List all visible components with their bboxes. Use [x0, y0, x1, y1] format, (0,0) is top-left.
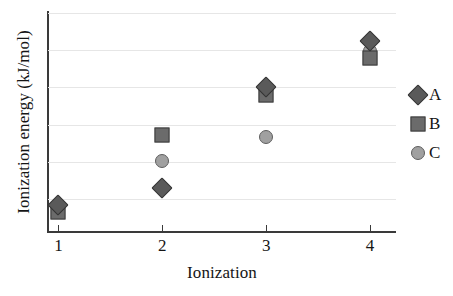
x-tick	[266, 225, 267, 232]
gridline	[48, 162, 396, 163]
x-tick-label-3: 3	[251, 236, 281, 256]
plot-area	[48, 12, 396, 232]
marker-diamond	[407, 84, 428, 105]
chart-legend: ABC	[410, 80, 453, 167]
x-tick-label-1: 1	[43, 236, 73, 256]
legend-item-a[interactable]: A	[410, 80, 453, 109]
gridline	[48, 87, 396, 88]
data-point-b-2	[155, 127, 170, 142]
gridline	[48, 50, 396, 51]
data-point-c-3	[259, 130, 273, 144]
x-axis-title: Ionization	[48, 263, 396, 283]
data-point-a-2	[152, 177, 173, 198]
chart-figure: Ionization energy (kJ/mol) 1234 Ionizati…	[0, 0, 453, 296]
x-tick-label-4: 4	[355, 236, 385, 256]
legend-swatch-b	[410, 116, 426, 132]
gridline	[48, 125, 396, 126]
legend-swatch-c	[410, 145, 426, 161]
legend-item-c[interactable]: C	[410, 138, 453, 167]
legend-swatch-a	[410, 87, 426, 103]
gridline	[48, 13, 396, 14]
data-point-c-2	[155, 154, 169, 168]
legend-item-b[interactable]: B	[410, 109, 453, 138]
data-point-b-4	[363, 50, 378, 65]
x-tick	[58, 225, 59, 232]
legend-label: A	[429, 86, 441, 103]
x-tick-label-2: 2	[147, 236, 177, 256]
y-axis-title: Ionization energy (kJ/mol)	[14, 2, 34, 242]
x-tick	[370, 225, 371, 232]
marker-circle	[411, 146, 425, 160]
legend-label: C	[429, 144, 440, 161]
legend-label: B	[429, 115, 440, 132]
marker-square	[411, 116, 426, 131]
x-tick	[162, 225, 163, 232]
gridline	[48, 199, 396, 200]
